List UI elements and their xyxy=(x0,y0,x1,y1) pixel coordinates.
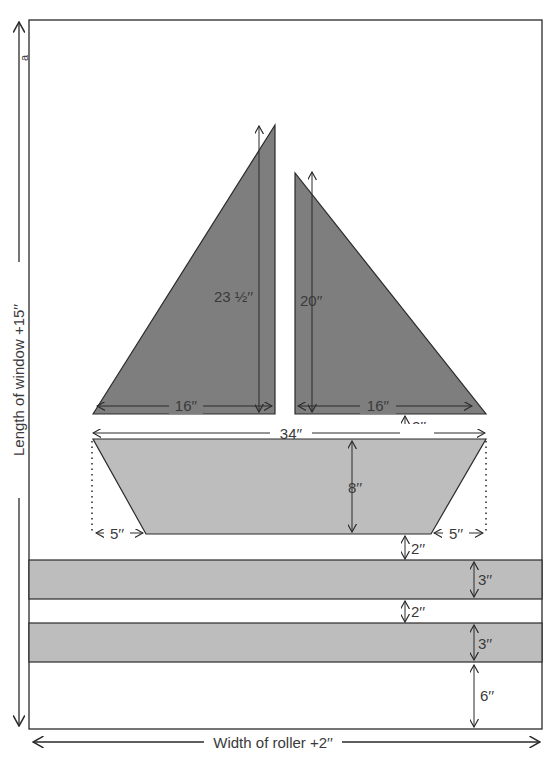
left-sail-base-label: 16′′ xyxy=(175,397,197,414)
hull-height-label: 8′′ xyxy=(348,479,362,496)
upper-stripe xyxy=(29,560,542,599)
right-sail-height-label: 20′′ xyxy=(300,292,322,309)
stripe-gap-label: 2′′ xyxy=(411,603,425,620)
right-sail-base-label: 16′′ xyxy=(367,397,389,414)
hull-width-mask-2 xyxy=(400,424,434,440)
hull xyxy=(93,439,486,534)
left-sail-height-label: 23 ½′′ xyxy=(214,288,253,305)
bottom-margin-label: 6′′ xyxy=(480,687,494,704)
upper-stripe-height-label: 3′′ xyxy=(478,571,492,588)
hull-left-inset-label: 5′′ xyxy=(110,525,124,542)
blind-pattern-diagram: a Length of window +15′′ 23 ½′′ 16′′ 20′… xyxy=(0,0,550,763)
length-label: Length of window +15′′ xyxy=(10,304,27,456)
lower-stripe xyxy=(29,623,542,662)
lower-stripe-height-label: 3′′ xyxy=(478,635,492,652)
corner-mark: a xyxy=(18,54,30,61)
hull-right-inset-label: 5′′ xyxy=(449,525,463,542)
hull-stripe-gap-label: 2′′ xyxy=(411,540,425,557)
width-label: Width of roller +2′′ xyxy=(213,734,333,751)
